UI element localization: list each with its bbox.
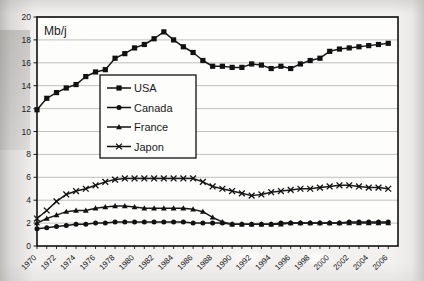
series-point-usa-1972	[54, 90, 59, 95]
series-point-usa-2003	[356, 44, 361, 49]
series-point-usa-1999	[317, 56, 322, 61]
series-point-usa-1993	[259, 62, 264, 67]
series-point-usa-1978	[112, 56, 117, 61]
series-point-usa-2004	[366, 43, 371, 48]
xtick-label-2006: 2006	[371, 253, 390, 272]
legend-label-france: France	[134, 121, 168, 133]
legend-marker-canada	[117, 105, 122, 110]
xtick-label-1980: 1980	[117, 253, 136, 272]
ytick-label-10: 10	[22, 127, 32, 137]
ytick-label-6: 6	[26, 172, 31, 182]
xtick-label-1988: 1988	[195, 253, 214, 272]
series-point-canada-1970	[35, 226, 40, 231]
series-point-usa-1976	[93, 69, 98, 74]
unit-label: Mb/j	[44, 24, 67, 38]
xtick-label-1976: 1976	[78, 253, 97, 272]
series-point-usa-1996	[288, 66, 293, 71]
series-point-canada-1985	[181, 219, 186, 224]
series-point-canada-1976	[93, 221, 98, 226]
xtick-label-1974: 1974	[58, 253, 77, 272]
xtick-label-1982: 1982	[137, 253, 156, 272]
series-point-usa-1987	[200, 58, 205, 63]
line-chart: 0246810121416182019701972197419761978198…	[0, 0, 424, 281]
series-point-usa-1994	[269, 66, 274, 71]
series-point-usa-1975	[83, 74, 88, 79]
series-point-usa-2000	[327, 49, 332, 54]
xtick-label-2000: 2000	[312, 253, 331, 272]
series-point-canada-1972	[54, 224, 59, 229]
chart-svg: 0246810121416182019701972197419761978198…	[0, 0, 424, 281]
series-point-canada-1978	[113, 219, 118, 224]
series-point-canada-1980	[132, 219, 137, 224]
series-point-canada-1981	[142, 219, 147, 224]
xtick-label-1970: 1970	[19, 253, 38, 272]
xtick-label-1998: 1998	[293, 253, 312, 272]
series-point-usa-1982	[151, 36, 156, 41]
series-point-usa-1990	[230, 65, 235, 70]
series-point-canada-1979	[122, 219, 127, 224]
series-point-usa-2005	[376, 42, 381, 47]
series-point-canada-1987	[200, 221, 205, 226]
series-point-canada-1986	[191, 221, 196, 226]
xtick-label-1972: 1972	[39, 253, 58, 272]
series-point-canada-1974	[74, 222, 79, 227]
xtick-label-1990: 1990	[215, 253, 234, 272]
series-point-usa-2002	[347, 45, 352, 50]
xtick-label-1996: 1996	[273, 253, 292, 272]
ytick-label-8: 8	[26, 149, 31, 159]
series-point-usa-1989	[220, 64, 225, 69]
ytick-label-0: 0	[26, 241, 31, 251]
ytick-label-16: 16	[22, 58, 32, 68]
series-point-usa-1973	[64, 85, 69, 90]
series-point-usa-1988	[210, 64, 215, 69]
legend-label-canada: Canada	[134, 102, 173, 114]
xtick-label-1994: 1994	[254, 253, 273, 272]
series-point-usa-1995	[278, 64, 283, 69]
series-point-canada-1982	[152, 219, 157, 224]
series-point-usa-1981	[142, 42, 147, 47]
series-point-usa-1983	[161, 29, 166, 34]
series-point-usa-1979	[122, 51, 127, 56]
series-point-canada-1983	[161, 219, 166, 224]
series-point-canada-1973	[64, 223, 69, 228]
legend-label-japon: Japon	[134, 141, 164, 153]
series-point-usa-1998	[308, 58, 313, 63]
series-point-usa-1977	[103, 67, 108, 72]
series-point-usa-2001	[337, 46, 342, 51]
series-point-usa-1970	[34, 107, 39, 112]
series-point-usa-1974	[73, 82, 78, 87]
xtick-label-2002: 2002	[332, 253, 351, 272]
xtick-label-2004: 2004	[351, 253, 370, 272]
series-point-usa-1980	[132, 45, 137, 50]
legend-label-usa: USA	[134, 82, 157, 94]
legend-marker-usa	[116, 85, 121, 90]
ytick-label-20: 20	[22, 12, 32, 22]
series-point-usa-1971	[44, 96, 49, 101]
ytick-label-4: 4	[26, 195, 31, 205]
series-point-canada-1984	[171, 219, 176, 224]
series-point-usa-2006	[386, 41, 391, 46]
xtick-label-1984: 1984	[156, 253, 175, 272]
series-point-canada-1975	[83, 222, 88, 227]
ytick-label-14: 14	[22, 81, 32, 91]
series-point-usa-1992	[249, 61, 254, 66]
ytick-label-18: 18	[22, 35, 32, 45]
series-point-canada-1971	[44, 225, 49, 230]
series-point-usa-1984	[171, 37, 176, 42]
series-point-canada-1988	[210, 221, 215, 226]
xtick-label-1978: 1978	[98, 253, 117, 272]
xtick-label-1992: 1992	[234, 253, 253, 272]
xtick-label-1986: 1986	[176, 253, 195, 272]
ytick-label-12: 12	[22, 104, 32, 114]
series-point-usa-1985	[181, 44, 186, 49]
series-point-usa-1991	[239, 65, 244, 70]
series-point-usa-1997	[298, 61, 303, 66]
series-point-usa-1986	[191, 50, 196, 55]
ytick-label-2: 2	[26, 218, 31, 228]
series-point-canada-1977	[103, 221, 108, 226]
